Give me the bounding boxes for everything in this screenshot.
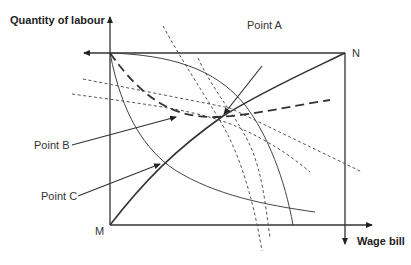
box-diagram: Quantity of labour Wage bill N M Point A… [0, 0, 411, 265]
point-a-label: Point A [247, 19, 283, 31]
corner-label-m: M [95, 225, 104, 237]
thin-concave-curve [110, 53, 293, 225]
dotted-curve-right [198, 58, 270, 238]
point-a-arrow [224, 66, 262, 114]
corner-label-n: N [352, 47, 360, 59]
dotted-line-lower [72, 94, 310, 172]
vertical-axis-label: Quantity of labour [10, 14, 105, 26]
horizontal-axis-label: Wage bill [357, 235, 405, 247]
point-c-label: Point C [41, 190, 77, 202]
point-b-label: Point B [34, 139, 69, 151]
contract-curve [110, 53, 345, 225]
point-b-arrow [72, 117, 176, 145]
bold-dashed-curve [110, 53, 330, 117]
